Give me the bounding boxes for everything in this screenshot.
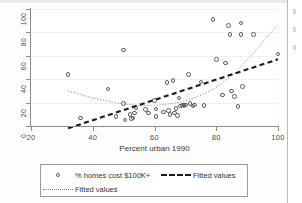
x-axis-tick <box>216 127 217 131</box>
legend-entry-marker: % homes cost $100K+ <box>41 168 150 182</box>
legend-key-dashed <box>159 174 193 176</box>
y-axis-tick <box>26 32 31 33</box>
fitted-lines-layer <box>31 9 278 126</box>
legend-entry-dashed: Fitted values <box>159 168 236 182</box>
x-axis-tick-label: 60 <box>142 133 168 142</box>
y-axis-tick-label: 20 <box>20 101 27 124</box>
figure-frame: 020406080100 20406080100 Percent urban 1… <box>0 0 288 203</box>
chart-legend: % homes cost $100K+ Fitted values Fitted… <box>40 164 248 197</box>
y-axis-line <box>30 8 31 127</box>
edge-mark-1 <box>293 9 296 14</box>
dashed-fitted-line <box>68 59 278 128</box>
x-axis-tick-label: 20 <box>18 133 44 142</box>
x-axis-tick <box>31 127 32 131</box>
y-axis-tick-label: 60 <box>20 54 27 77</box>
plot-area <box>31 9 278 126</box>
x-axis-tick-label: 100 <box>265 133 291 142</box>
x-axis-tick-label: 40 <box>80 133 106 142</box>
chart-screenshot: 020406080100 20406080100 Percent urban 1… <box>0 0 302 203</box>
edge-mark-2 <box>293 27 296 32</box>
dashed-line-icon <box>161 174 191 176</box>
y-axis-tick <box>26 79 31 80</box>
edge-mark-3 <box>293 45 296 50</box>
legend-label-homes: % homes cost $100K+ <box>75 171 150 180</box>
legend-label-fitted-dotted: Fitted values <box>75 185 118 194</box>
y-axis-tick <box>26 56 31 57</box>
x-axis-tick <box>278 127 279 131</box>
legend-entry-dotted: Fitted values <box>41 182 118 196</box>
legend-key-dotted <box>41 189 75 190</box>
dotted-line-icon <box>43 189 73 190</box>
x-axis-tick <box>93 127 94 131</box>
open-circle-icon <box>56 173 61 178</box>
x-axis-title: Percent urban 1990 <box>31 144 278 153</box>
y-axis-tick <box>26 103 31 104</box>
y-axis-tick <box>26 9 31 10</box>
legend-key-marker <box>41 173 75 178</box>
x-axis-tick <box>155 127 156 131</box>
right-edge-strip <box>289 0 302 203</box>
x-axis-tick-label: 80 <box>203 133 229 142</box>
y-axis-tick-label: 40 <box>20 78 27 101</box>
y-axis-tick-label: 80 <box>20 31 27 54</box>
legend-label-fitted-dashed: Fitted values <box>193 171 236 180</box>
y-axis-tick-label: 100 <box>20 8 27 31</box>
